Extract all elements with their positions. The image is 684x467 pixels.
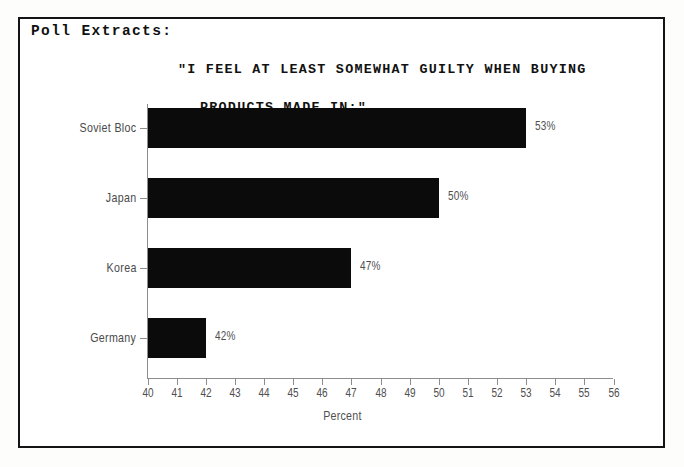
x-axis-tick (584, 379, 585, 385)
value-label-germany: 42% (215, 329, 236, 343)
x-axis-tick-label: 47 (339, 386, 363, 400)
value-label-japan: 50% (448, 189, 469, 203)
x-axis-tick-label: 52 (485, 386, 509, 400)
value-label-soviet-bloc: 53% (535, 119, 556, 133)
y-axis-tick (140, 268, 148, 269)
category-label-soviet-bloc: Soviet Bloc (80, 120, 137, 135)
x-axis-tick-label: 48 (369, 386, 393, 400)
y-axis-tick (140, 338, 148, 339)
x-axis-tick-label: 41 (165, 386, 189, 400)
x-axis-tick-label: 43 (223, 386, 247, 400)
x-axis-tick-label: 51 (456, 386, 480, 400)
x-axis-tick (206, 379, 207, 385)
bar-chart-plot: Soviet Bloc53%Japan50%Korea47%Germany42%… (0, 0, 684, 467)
x-axis-tick (381, 379, 382, 385)
x-axis-tick (264, 379, 265, 385)
x-axis-tick-label: 44 (252, 386, 276, 400)
x-axis-tick (555, 379, 556, 385)
x-axis-tick (614, 379, 615, 385)
x-axis-tick (235, 379, 236, 385)
y-axis-tick (140, 198, 148, 199)
x-axis-tick-label: 54 (543, 386, 567, 400)
x-axis-tick (526, 379, 527, 385)
bar-japan (148, 178, 439, 218)
y-axis-tick (140, 128, 148, 129)
bar-soviet-bloc (148, 108, 527, 148)
x-axis-title-text: Percent (323, 408, 361, 423)
category-label-japan: Japan (106, 190, 137, 205)
bar-germany (148, 318, 206, 358)
x-axis-tick-label: 49 (398, 386, 422, 400)
x-axis-tick (351, 379, 352, 385)
bar-korea (148, 248, 352, 288)
x-axis-tick-label: 56 (602, 386, 626, 400)
x-axis-tick (410, 379, 411, 385)
x-axis-tick-label: 40 (136, 386, 160, 400)
category-label-korea: Korea (106, 260, 136, 275)
value-label-korea: 47% (360, 259, 381, 273)
x-axis-tick-label: 46 (310, 386, 334, 400)
x-axis-tick-label: 53 (514, 386, 538, 400)
x-axis-tick-label: 45 (281, 386, 305, 400)
x-axis-tick (468, 379, 469, 385)
x-axis-tick (148, 379, 149, 385)
x-axis-tick (177, 379, 178, 385)
x-axis-tick (293, 379, 294, 385)
x-axis-title: Percent (0, 408, 684, 423)
x-axis-tick-label: 55 (572, 386, 596, 400)
x-axis-tick (439, 379, 440, 385)
x-axis-tick (497, 379, 498, 385)
x-axis-tick-label: 42 (194, 386, 218, 400)
x-axis-tick-label: 50 (427, 386, 451, 400)
x-axis-tick (322, 379, 323, 385)
category-label-germany: Germany (90, 330, 136, 345)
screenshot-page: Poll Extracts: "I FEEL AT LEAST SOMEWHAT… (0, 0, 684, 467)
